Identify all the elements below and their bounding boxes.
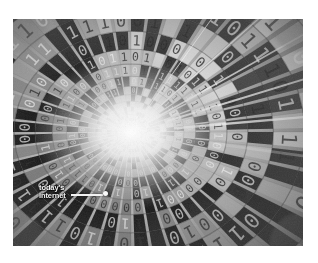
tunnel-illustration-svg: 0110010000000000010001101011110110100000… (13, 19, 303, 246)
binary-tunnel-image: 0110010000000000010001101011110110100000… (13, 19, 303, 246)
figure-root: 0110010000000000010001101011110110100000… (0, 0, 318, 263)
